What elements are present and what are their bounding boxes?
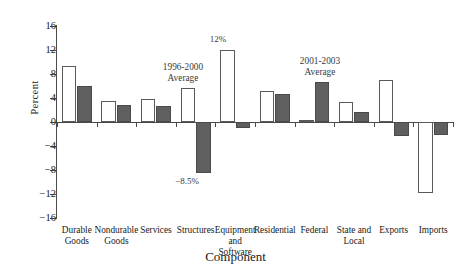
bar-group: [334, 26, 374, 218]
bar-group: [176, 26, 216, 218]
y-tick-label: −8: [12, 165, 56, 176]
bar-2001-2003: [156, 106, 171, 122]
bar-1996-2000: [220, 50, 235, 122]
x-category-label-line: and: [205, 236, 265, 247]
bar-2001-2003: [275, 94, 290, 122]
bar-1996-2000: [141, 99, 156, 122]
annotation-line-1: 2001-2003: [283, 56, 357, 67]
y-tick-label: 0: [12, 117, 56, 128]
bar-2001-2003: [434, 122, 449, 135]
annotation-line-1: 1996-2000: [146, 62, 220, 73]
bar-group: [97, 26, 137, 218]
bar-1996-2000: [260, 91, 275, 122]
bar-1996-2000: [339, 102, 354, 122]
y-tick-label: 8: [12, 69, 56, 80]
bar-2001-2003: [196, 122, 211, 173]
bar-group: [413, 26, 453, 218]
annotation-line-2: Average: [283, 67, 357, 78]
bar-1996-2000: [418, 122, 433, 193]
bar-group: [215, 26, 255, 218]
annotation-negative-8-5-percent: −8.5%: [164, 176, 210, 187]
x-category-label: Imports: [403, 225, 463, 236]
annotation-12-percent: 12%: [198, 34, 238, 45]
y-tick-label: −4: [12, 141, 56, 152]
bar-2001-2003: [394, 122, 409, 136]
bar-2001-2003: [77, 86, 92, 122]
bar-1996-2000: [62, 66, 77, 122]
bar-1996-2000: [181, 88, 196, 122]
x-category-label-line: Goods: [87, 236, 147, 247]
bar-2001-2003: [315, 82, 330, 122]
x-category-label-line: Imports: [403, 225, 463, 236]
bar-group: [136, 26, 176, 218]
bar-1996-2000: [299, 120, 314, 122]
annotation-2001-2003-average: 2001-2003 Average: [283, 56, 357, 78]
bar-2001-2003: [236, 122, 251, 128]
bar-group: [295, 26, 335, 218]
plot-area: [57, 26, 453, 218]
bar-1996-2000: [101, 101, 116, 122]
y-tick-label: 16: [12, 21, 56, 32]
annotation-line-2: Average: [146, 73, 220, 84]
bar-group: [255, 26, 295, 218]
y-tick-label: 12: [12, 45, 56, 56]
y-tick-label: −12: [12, 189, 56, 200]
annotation-1996-2000-average: 1996-2000 Average: [146, 62, 220, 84]
y-tick-label: −16: [12, 213, 56, 224]
x-axis-title: Component: [0, 249, 471, 265]
bar-chart: Percent 1612840−4−8−12−16 DurableGoodsNo…: [0, 0, 471, 274]
bar-2001-2003: [117, 105, 132, 122]
bar-1996-2000: [379, 80, 394, 122]
y-tick-label: 4: [12, 93, 56, 104]
bar-group: [57, 26, 97, 218]
x-category-label-line: Local: [324, 236, 384, 247]
x-tick-mark: [453, 122, 454, 127]
bar-group: [374, 26, 414, 218]
bar-2001-2003: [354, 112, 369, 122]
